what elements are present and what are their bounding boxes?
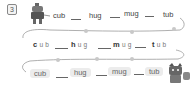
row1-word-hug: hug (89, 11, 102, 20)
track-marker (84, 29, 88, 33)
connector-dash (56, 77, 68, 78)
connector-dash (134, 74, 144, 75)
track-curve-1 (23, 29, 50, 38)
row3-word-mug: mug (108, 67, 131, 76)
row2-word-hug: hug (71, 40, 89, 49)
row3-word-tub: tub (145, 67, 163, 76)
row3-word-cub: cub (30, 69, 50, 78)
connector-dash (96, 75, 107, 76)
track-marker (130, 57, 134, 61)
connector-dash (110, 17, 120, 18)
row2-word-cub: cub (33, 40, 51, 49)
track-marker (95, 57, 99, 61)
connector-dash (71, 19, 81, 20)
word-letters: ub (39, 41, 51, 48)
row3-word-hug: hug (70, 68, 91, 77)
row2-word-mug: mug (113, 40, 134, 49)
connector-dash (98, 48, 111, 49)
row1-word-cub: cub (53, 11, 65, 20)
row1-word-mug: mug (124, 9, 139, 18)
track-marker (130, 30, 134, 34)
row1-word-tub: tub (163, 10, 173, 19)
word-letters: ug (78, 41, 90, 48)
word-letters: ub (157, 41, 169, 48)
word-letters: ug (122, 41, 134, 48)
track-marker (172, 27, 176, 31)
connector-dash (145, 16, 154, 17)
connector-dash (55, 48, 68, 49)
row2-word-tub: tub (152, 40, 168, 49)
connector-dash (135, 47, 146, 48)
track-marker (56, 58, 60, 62)
